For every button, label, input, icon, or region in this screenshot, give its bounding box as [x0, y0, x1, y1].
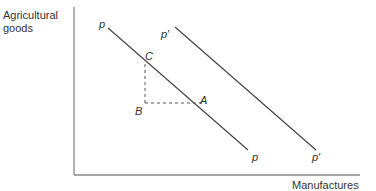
- price-line-p-end-label: p: [251, 151, 258, 163]
- price-line-p: [108, 28, 248, 150]
- point-C-label: C: [145, 50, 153, 62]
- price-line-p-prime-end-label: p′: [311, 151, 321, 163]
- y-axis-label-line2: goods: [3, 22, 33, 34]
- point-B-label: B: [135, 105, 142, 117]
- point-A-label: A: [199, 94, 207, 106]
- price-line-p-prime-start-label: p′: [160, 28, 170, 40]
- diagram-svg: Agricultural goods Manufactures p p p′ p…: [0, 0, 376, 191]
- price-line-p-start-label: p: [98, 18, 105, 30]
- trade-diagram: Agricultural goods Manufactures p p p′ p…: [0, 0, 376, 191]
- x-axis-label: Manufactures: [292, 179, 359, 191]
- y-axis-label-line1: Agricultural: [3, 9, 58, 21]
- price-line-p-prime: [175, 27, 316, 150]
